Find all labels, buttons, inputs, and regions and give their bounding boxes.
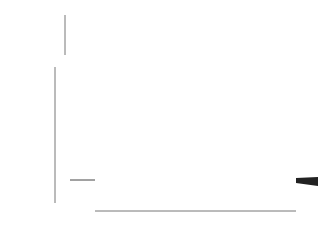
- command-voltage-panel: [22, 15, 65, 55]
- current-panel: [38, 67, 318, 211]
- tail-currents: [296, 177, 318, 186]
- voltage-clamp-figure: [0, 0, 332, 247]
